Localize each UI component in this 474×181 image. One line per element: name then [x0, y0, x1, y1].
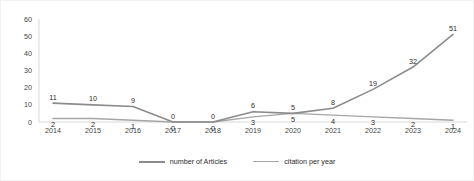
y-axis-tick-labels: 0102030405060: [24, 15, 32, 127]
y-tick-label: 20: [24, 83, 32, 92]
data-point-label: 10: [89, 94, 97, 103]
data-point-label: 3: [371, 118, 375, 127]
legend-swatch-icon: [139, 161, 165, 163]
data-point-label: 0: [171, 112, 175, 121]
data-point-label: 0: [171, 124, 175, 133]
x-tick-label: 2021: [325, 126, 341, 135]
chart-legend: number of Articles citation per year: [1, 157, 473, 166]
legend-item-number-of-articles[interactable]: number of Articles: [139, 157, 228, 166]
y-tick-label: 50: [24, 32, 32, 41]
y-tick-label: 30: [24, 66, 32, 75]
legend-swatch-icon: [253, 161, 279, 163]
data-point-label: 4: [331, 117, 335, 126]
data-point-label: 9: [131, 96, 135, 105]
data-point-label: 8: [331, 98, 335, 107]
data-point-label: 3: [251, 118, 255, 127]
data-point-label: 5: [291, 103, 295, 112]
chart-container: 0102030405060 20142015201620172018201920…: [0, 0, 474, 181]
data-point-label: 19: [369, 79, 377, 88]
legend-item-citation-per-year[interactable]: citation per year: [253, 157, 335, 166]
data-point-label: 2: [91, 120, 95, 129]
legend-label: citation per year: [284, 157, 335, 166]
x-tick-label: 2020: [285, 126, 301, 135]
data-point-label: 6: [251, 101, 255, 110]
data-point-label: 51: [449, 24, 457, 33]
y-tick-label: 0: [28, 118, 32, 127]
y-tick-label: 10: [24, 100, 32, 109]
data-point-label: 0: [211, 112, 215, 121]
data-point-label: 0: [211, 124, 215, 133]
data-point-label: 32: [409, 57, 417, 66]
data-point-label: 5: [291, 115, 295, 124]
line-chart-plot: 0102030405060 20142015201620172018201920…: [1, 1, 474, 181]
y-tick-label: 60: [24, 15, 32, 24]
data-point-label: 2: [51, 120, 55, 129]
data-point-label: 2: [411, 120, 415, 129]
legend-label: number of Articles: [170, 157, 228, 166]
y-tick-label: 40: [24, 49, 32, 58]
data-point-label: 1: [131, 122, 135, 131]
data-point-label: 1: [451, 122, 455, 131]
data-point-label: 11: [49, 93, 56, 102]
